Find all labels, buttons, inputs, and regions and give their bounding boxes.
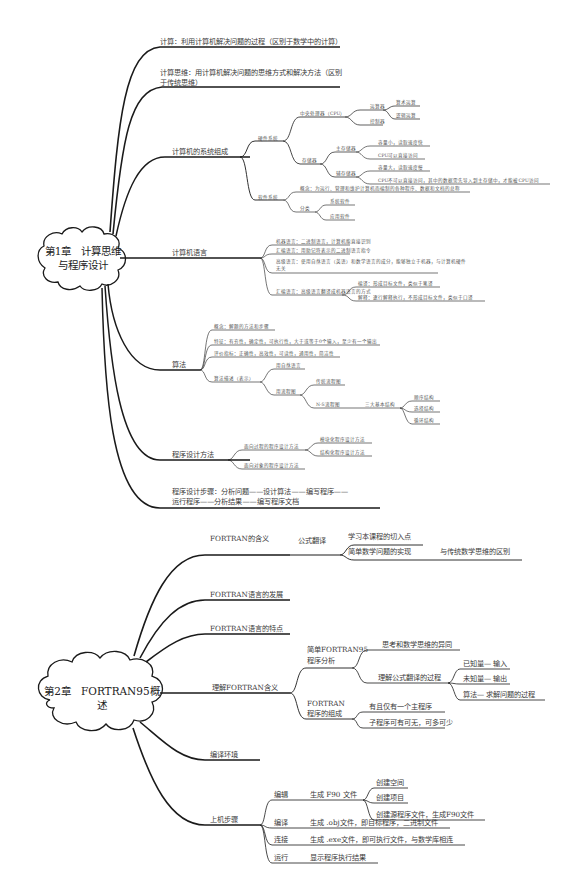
- node-edit[interactable]: 编辑: [274, 790, 288, 799]
- node-main-mem-2[interactable]: CPU可以直接访问: [378, 153, 418, 159]
- node-alg-concept[interactable]: 概念：解题的方法和步骤: [214, 324, 269, 330]
- chapter1-title-line1: 第1章 计算思维: [44, 244, 122, 258]
- node-control[interactable]: 控制器: [370, 119, 385, 125]
- chapter1-title-line2: 与程序设计: [44, 258, 122, 272]
- node-create-project[interactable]: 创建项目: [376, 793, 404, 802]
- node-edit-action[interactable]: 生成 F90 文件: [310, 790, 357, 799]
- node-high-lang-cont: 无关: [276, 266, 286, 272]
- node-alu[interactable]: 运算器: [370, 104, 385, 110]
- node-aux-mem-1[interactable]: 容量大，读取速度慢: [378, 165, 423, 171]
- node-structured[interactable]: 结构化程序设计方法: [320, 450, 365, 456]
- node-language[interactable]: 计算机语言: [172, 248, 207, 257]
- node-software-category[interactable]: 分类: [300, 206, 310, 212]
- node-main-memory[interactable]: 主存储器: [336, 146, 356, 152]
- node-formula-process[interactable]: 理解公式翻译的过程: [378, 673, 441, 682]
- node-alg-metrics[interactable]: 评价指标：正确性，高效性，可读性，通用性，简洁性: [214, 351, 334, 357]
- node-math-difference[interactable]: 与传统数学思维的区别: [440, 547, 510, 556]
- node-compile-action[interactable]: 生成 .obj文件，即目标程序，二进制文件: [310, 818, 438, 827]
- node-composition-line2: 程序的组成: [307, 709, 342, 718]
- node-cpu[interactable]: 中央处理器（CPU）: [300, 111, 345, 117]
- node-interpret-mode[interactable]: 解释：逐行解释执行，不形成目标文件，类似于口译: [358, 295, 473, 301]
- node-traditional-flowchart[interactable]: 传统流程图: [316, 379, 341, 385]
- node-oop[interactable]: 面向对象的程序设计方法: [244, 463, 299, 469]
- node-alg-features[interactable]: 特征：有穷性，确定性，可执行性，大于或等于0个输入，至少有一个输出: [214, 339, 377, 345]
- node-aux-mem-2[interactable]: CPU不可以直接访问，其中的数据需先导入到主存储中，才能被CPU访问: [378, 178, 539, 184]
- node-alg-describe[interactable]: 算法描述（表示）: [214, 376, 254, 382]
- node-computing[interactable]: 计算：利用计算机解决问题的过程（区别于数学中的计算）: [160, 37, 342, 46]
- node-selection[interactable]: 选择结构: [414, 406, 434, 412]
- node-create-workspace[interactable]: 创建空间: [376, 778, 404, 787]
- node-method[interactable]: 程序设计方法: [172, 450, 214, 459]
- node-machine-steps[interactable]: 上机步骤: [210, 815, 238, 824]
- node-natural-lang[interactable]: 用自然语言: [276, 363, 301, 369]
- node-steps-line2: 运行程序——分析结果——编写程序文档: [172, 497, 299, 506]
- node-formula-translate[interactable]: 公式翻译: [298, 536, 326, 545]
- chapter1-cloud[interactable]: 第1章 计算思维 与程序设计: [44, 244, 122, 272]
- node-simple-math[interactable]: 简单数学问题的实现: [348, 547, 411, 556]
- node-procedural[interactable]: 面向过程的程序设计方法: [244, 444, 299, 450]
- node-thinking-line2: 于传统思维）: [160, 78, 202, 87]
- node-link[interactable]: 连接: [274, 835, 288, 844]
- node-flowchart[interactable]: 用流程图: [276, 389, 296, 395]
- node-run-action[interactable]: 显示程序执行结果: [310, 853, 366, 862]
- node-unknown-output[interactable]: 未知量— 输出: [463, 674, 507, 683]
- node-machine-lang[interactable]: 机器语言：二进制语言，计算机能直接识别: [276, 239, 371, 245]
- node-run[interactable]: 运行: [274, 853, 288, 862]
- node-software-concept[interactable]: 概念：为运行、管理和维护计算机而编制的各种程序、数据和文档的总称: [300, 186, 460, 192]
- mind-map-canvas: 第1章 计算思维 与程序设计 计算：利用计算机解决问题的过程（区别于数学中的计算…: [0, 0, 581, 889]
- node-software[interactable]: 软件系统: [258, 195, 278, 201]
- node-high-lang[interactable]: 高级语言：使用自然语言（英语）和数学语言的成分，能够独立于机器，与计算机硬件: [276, 259, 466, 265]
- node-compile[interactable]: 编译: [274, 818, 288, 827]
- node-system[interactable]: 计算机的系统组成: [172, 147, 228, 156]
- chapter2-cloud[interactable]: 第2章 FORTRAN95概述: [40, 684, 164, 712]
- node-known-input[interactable]: 已知量— 输入: [463, 659, 507, 668]
- node-main-mem-1[interactable]: 容量小，读取速度快: [378, 140, 423, 146]
- node-steps-line1[interactable]: 程序设计步骤：分析问题——设计算法——编写程序——: [172, 487, 348, 496]
- node-understand-fortran[interactable]: 理解FORTRAN含义: [212, 683, 278, 692]
- node-think-diff[interactable]: 思考和数学思维的异同: [382, 640, 452, 649]
- node-sequence[interactable]: 顺序结构: [414, 395, 434, 401]
- node-main-program[interactable]: 有且仅有一个主程序: [369, 702, 432, 711]
- node-link-action[interactable]: 生成 .exe文件，即可执行文件，与数学库相连: [310, 835, 453, 844]
- node-three-structures[interactable]: 三大基本结构: [365, 402, 395, 408]
- node-logic[interactable]: 逻辑运算: [396, 113, 416, 119]
- node-memory[interactable]: 存储器: [302, 158, 317, 164]
- node-thinking-line1[interactable]: 计算思维：用计算机解决问题的思维方式和解决方法（区别: [160, 68, 342, 77]
- node-system-software[interactable]: 系统软件: [330, 199, 350, 205]
- node-translate[interactable]: 汇编语言：高级语言翻译成机器语言的方式: [276, 289, 371, 295]
- node-loop[interactable]: 循环结构: [414, 418, 434, 424]
- node-compile-env[interactable]: 编译环境: [210, 750, 238, 759]
- node-hardware[interactable]: 硬件系统: [258, 136, 278, 142]
- node-simple-program-line1[interactable]: 简单FORTRAN95: [307, 645, 368, 654]
- node-algorithm-process[interactable]: 算法— 求解问题的过程: [463, 690, 535, 699]
- node-assembly-lang[interactable]: 汇编语言：用助记符表示的二进制语言指令: [276, 248, 371, 254]
- node-algorithm[interactable]: 算法: [172, 360, 186, 369]
- node-composition-line1[interactable]: FORTRAN: [307, 699, 345, 708]
- node-compile-mode[interactable]: 编译：形成目标文件，类似于笔译: [358, 281, 433, 287]
- node-entry-point[interactable]: 学习本课程的切入点: [348, 532, 411, 541]
- node-modular[interactable]: 模块化程序设计方法: [320, 437, 365, 443]
- node-fortran-meaning[interactable]: FORTRAN的含义: [210, 534, 269, 543]
- node-application-software[interactable]: 应用软件: [330, 214, 350, 220]
- node-aux-memory[interactable]: 辅存储器: [336, 171, 356, 177]
- node-arith[interactable]: 算术运算: [396, 100, 416, 106]
- node-fortran-features[interactable]: FORTRAN语言的特点: [210, 624, 283, 633]
- node-fortran-development[interactable]: FORTRAN语言的发展: [210, 590, 283, 599]
- chapter2-title: 第2章 FORTRAN95概述: [40, 684, 164, 712]
- node-ns-flowchart[interactable]: N-S流程图: [316, 402, 340, 408]
- node-simple-program-line2: 程序分析: [307, 656, 335, 665]
- node-subprogram[interactable]: 子程序可有可无，可多可少: [369, 718, 453, 727]
